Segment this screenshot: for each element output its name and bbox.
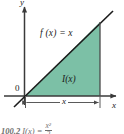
coordinate-plot [0,0,124,134]
origin-label: 0 [15,84,20,93]
y-axis-label: y [20,0,24,7]
dimension-label: x [60,97,68,106]
x-axis-label: x [112,101,116,110]
caption-body: I(x) = [22,126,42,134]
math-figure: f (x) = x I(x) 0 y x x 100.2 I(x) = x² 2 [0,0,124,134]
function-label: f (x) = x [40,29,73,39]
caption-fraction-denominator: 2 [45,131,53,134]
caption-fraction: x² 2 [45,122,53,134]
figure-caption: 100.2 I(x) = x² 2 [1,122,52,134]
caption-number: 100.2 [1,126,20,134]
region-label: I(x) [62,75,76,85]
